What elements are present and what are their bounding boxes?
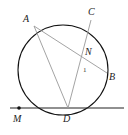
angle-1-label: 1	[83, 66, 87, 74]
label-d: D	[62, 113, 71, 124]
label-m: M	[12, 113, 22, 124]
chord-ab	[34, 26, 107, 73]
geometry-diagram: A C N 1 B M D	[0, 0, 128, 135]
point-m-dot	[17, 106, 21, 110]
circle-o	[18, 25, 108, 115]
label-c: C	[88, 6, 95, 17]
chord-ad	[34, 26, 68, 108]
chord-cd	[68, 20, 91, 108]
label-n: N	[84, 46, 93, 57]
label-b: B	[109, 71, 115, 82]
label-a: A	[22, 13, 30, 24]
